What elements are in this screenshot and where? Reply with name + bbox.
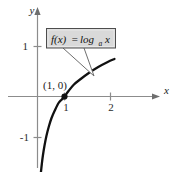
y-axis-label: y <box>29 4 35 16</box>
callout-arg: x <box>104 33 110 45</box>
callout-equals: = <box>71 33 78 45</box>
x-axis-arrowhead <box>152 93 160 99</box>
leader-path <box>63 48 94 76</box>
callout-log: log <box>80 33 95 45</box>
y-tick-label-neg1: -1 <box>20 131 29 143</box>
y-axis-arrowhead <box>34 7 40 15</box>
log-curve <box>41 59 115 172</box>
plot-canvas: f(x) = log a x y x 1 -1 1 2 (1, 0) <box>0 0 174 172</box>
callout-leader-line <box>63 48 94 76</box>
callout-log-base: a <box>99 39 103 48</box>
logarithmic-function-figure: f(x) = log a x y x 1 -1 1 2 (1, 0) <box>0 0 174 172</box>
x-intercept-marker <box>61 93 67 99</box>
callout-fx: f(x) <box>51 33 67 46</box>
curve-group <box>41 59 115 172</box>
x-tick-label-2: 2 <box>108 101 114 113</box>
x-axis-label: x <box>163 84 169 96</box>
intercept-annotation: (1, 0) <box>43 79 67 92</box>
y-tick-label-1: 1 <box>23 40 29 52</box>
x-tick-label-1: 1 <box>63 101 69 113</box>
